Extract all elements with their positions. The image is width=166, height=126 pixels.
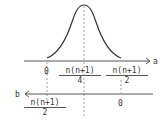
- axis-b-label: b: [15, 90, 20, 99]
- axis-a-tick-zero: 0: [44, 67, 49, 76]
- fraction-numerator: n(n+1): [24, 98, 66, 108]
- fraction-denominator: 2: [24, 108, 66, 118]
- axis-b-tick-zero: 0: [118, 99, 123, 108]
- distribution-diagram: a b 0 n(n+1) 4 n(n+1) 2 n(n+1) 2 0: [0, 0, 166, 126]
- axis-a-tick-half: n(n+1) 2: [106, 66, 148, 86]
- fraction-denominator: 4: [59, 76, 101, 86]
- fraction-numerator: n(n+1): [59, 66, 101, 76]
- axis-b-tick-half: n(n+1) 2: [24, 98, 66, 118]
- fraction-denominator: 2: [106, 76, 148, 86]
- fraction-numerator: n(n+1): [106, 66, 148, 76]
- axis-a-tick-quarter: n(n+1) 4: [59, 66, 101, 86]
- axis-a-label: a: [153, 57, 158, 66]
